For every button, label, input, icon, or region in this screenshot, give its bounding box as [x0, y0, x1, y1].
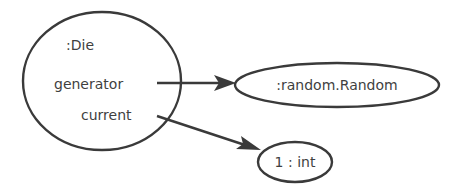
int-object-node: 1 : int — [258, 142, 332, 182]
object-diagram: :Die generator current :random.Random 1 … — [0, 0, 457, 192]
generator-reference-arrow — [157, 75, 236, 91]
int-object-label: 1 : int — [275, 154, 316, 170]
die-object-label: :Die — [66, 37, 94, 53]
field-generator-label: generator — [54, 76, 123, 92]
random-object-label: :random.Random — [276, 77, 397, 93]
die-object-node: :Die generator current — [23, 12, 181, 150]
field-current-label: current — [81, 107, 132, 123]
current-reference-arrow — [157, 116, 261, 150]
random-object-node: :random.Random — [235, 63, 439, 107]
current-arrow-line — [157, 116, 248, 146]
